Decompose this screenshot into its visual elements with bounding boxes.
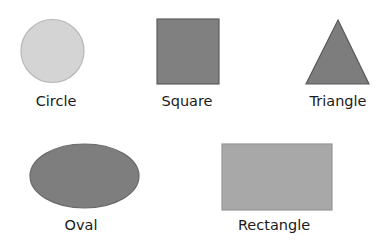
rectangle-label: Rectangle <box>238 218 310 233</box>
circle-label: Circle <box>36 94 77 109</box>
triangle-shape <box>306 20 369 84</box>
shapes-canvas <box>0 0 389 247</box>
circle-shape <box>21 20 84 83</box>
square-shape <box>157 19 219 84</box>
square-label: Square <box>161 94 212 109</box>
oval-shape <box>30 144 139 208</box>
oval-label: Oval <box>65 218 98 233</box>
rectangle-shape <box>222 144 332 210</box>
triangle-label: Triangle <box>310 94 367 109</box>
